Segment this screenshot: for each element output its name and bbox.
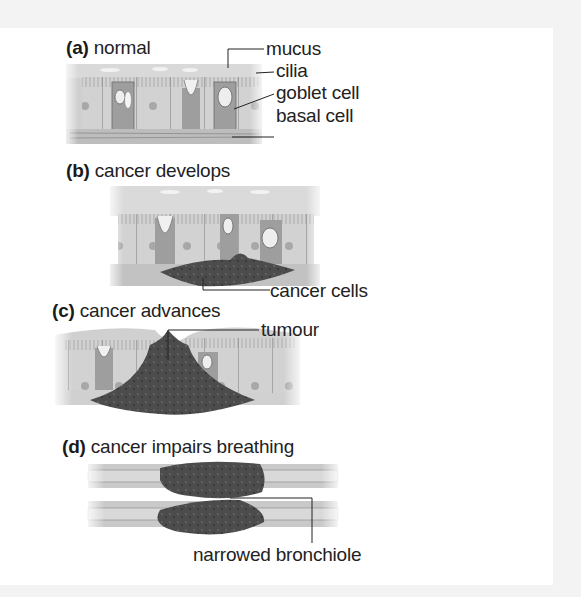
panel-d-title-text: cancer impairs breathing bbox=[91, 436, 294, 457]
label-tumour: tumour bbox=[261, 320, 319, 340]
panel-d-tissue bbox=[84, 460, 342, 534]
label-narrowed-bronchiole: narrowed bronchiole bbox=[193, 545, 361, 565]
panel-d-title: (d) cancer impairs breathing bbox=[62, 437, 294, 457]
panel-c-letter: (c) bbox=[52, 300, 75, 321]
panel-a-tissue bbox=[62, 62, 266, 146]
panel-b-title-text: cancer develops bbox=[95, 160, 230, 181]
panel-b-tissue bbox=[106, 184, 324, 288]
label-cancer-cells: cancer cells bbox=[270, 281, 368, 301]
panel-b-letter: (b) bbox=[66, 160, 90, 181]
panel-c-title-text: cancer advances bbox=[80, 300, 221, 321]
panel-b-title: (b) cancer develops bbox=[66, 161, 230, 181]
panel-c-title: (c) cancer advances bbox=[52, 301, 220, 321]
panel-d-letter: (d) bbox=[62, 436, 86, 457]
